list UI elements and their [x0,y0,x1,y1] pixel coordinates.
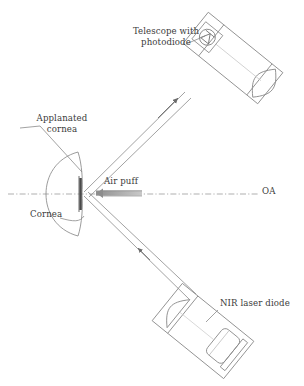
label-applanated-line1: Applanated [22,113,102,124]
label-nir-laser-diode: NIR laser diode [220,298,290,309]
optical-diagram [0,0,304,386]
label-telescope-with-photodiode: Telescope with photodiode [118,26,214,48]
label-applanated-cornea: Applanated cornea [22,113,102,135]
label-telescope-line1: Telescope with [118,26,214,37]
label-cornea: Cornea [30,209,62,220]
label-air-puff: Air puff [104,176,138,187]
label-applanated-line2: cornea [22,124,102,135]
label-optical-axis: OA [262,186,275,197]
label-telescope-line2: photodiode [118,37,214,48]
